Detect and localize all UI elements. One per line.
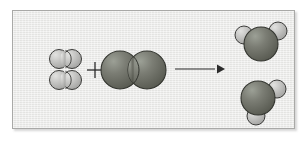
hydrogen-atom (63, 71, 82, 90)
oxygen-atom (128, 51, 166, 89)
atom-overlap-fill (60, 50, 66, 67)
plus-operator-icon (87, 62, 103, 78)
water-molecule-2 (241, 80, 286, 125)
hydrogen-molecule-1 (50, 50, 82, 69)
atom-seam-line (134, 57, 140, 84)
figure-root (0, 0, 307, 141)
water-molecule-1 (235, 22, 287, 61)
oxygen-atom (101, 51, 139, 89)
hydrogen-atom (63, 50, 82, 69)
hydrogen-atom (50, 50, 69, 69)
atom-overlap-fill (128, 57, 134, 84)
atom-seam-line (66, 71, 72, 88)
hydrogen-atom (269, 22, 287, 40)
hydrogen-atom (235, 26, 253, 44)
hydrogen-atom (247, 107, 265, 125)
reaction-svg (13, 11, 295, 129)
reaction-arrow (175, 65, 225, 74)
atom-seam-line (66, 50, 72, 67)
oxygen-molecule (101, 51, 166, 89)
oxygen-atom (241, 81, 275, 115)
arrow-head-icon (217, 65, 225, 74)
hydrogen-atom (268, 80, 286, 98)
atom-overlap-fill (60, 71, 66, 88)
oxygen-atom (244, 27, 278, 61)
hydrogen-molecule-2 (50, 71, 82, 90)
hydrogen-atom (50, 71, 69, 90)
reaction-diagram-panel (12, 10, 295, 129)
